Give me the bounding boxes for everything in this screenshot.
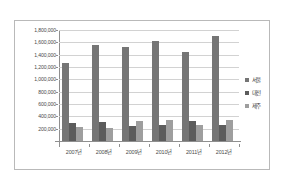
- bar: [189, 121, 196, 141]
- x-axis-tick-mark: [239, 144, 240, 147]
- x-axis-tick-mark: [89, 144, 90, 147]
- x-axis-tick-mark: [209, 144, 210, 147]
- legend-item[interactable]: 제주: [245, 99, 282, 112]
- y-axis-labels: 200,000400,000600,000800,0001,000,0001,2…: [15, 30, 56, 141]
- y-axis-tick-mark: [56, 92, 58, 93]
- x-axis-tick-label: 2008년: [89, 148, 119, 156]
- bar: [92, 45, 99, 142]
- x-axis-tick-label: 2007년: [59, 148, 89, 156]
- legend-swatch-icon: [245, 78, 249, 82]
- y-axis-tick-label: 200,000: [16, 126, 56, 131]
- bar: [106, 128, 113, 141]
- legend-item-label: 서울: [252, 76, 262, 84]
- y-axis-tick-mark: [56, 30, 58, 31]
- y-axis-tick-label: 400,000: [16, 114, 56, 119]
- bar: [76, 127, 83, 141]
- x-axis-tick-mark: [149, 144, 150, 147]
- bar: [99, 122, 106, 141]
- legend-swatch-icon: [245, 91, 249, 95]
- bar: [152, 41, 159, 141]
- chart-legend: 서울대전제주: [245, 73, 282, 112]
- plot-area: [59, 30, 239, 141]
- x-axis-labels: 2007년2008년2009년2010년2011년2012년: [59, 144, 239, 158]
- y-axis-tick-label: 1,000,000: [16, 77, 56, 82]
- bar: [136, 121, 143, 141]
- y-axis-tick-label: 1,200,000: [16, 65, 56, 70]
- legend-item[interactable]: 대전: [245, 86, 282, 99]
- x-axis-tick-mark: [59, 144, 60, 147]
- legend-swatch-icon: [245, 104, 249, 108]
- legend-item-label: 대전: [252, 89, 262, 97]
- y-axis-tick-label: 800,000: [16, 89, 56, 94]
- bar: [212, 36, 219, 141]
- bar: [129, 126, 136, 141]
- bar: [69, 123, 76, 141]
- legend-item-label: 제주: [252, 102, 262, 110]
- bar: [196, 125, 203, 141]
- y-axis-tick-mark: [56, 79, 58, 80]
- x-axis-line: [55, 141, 241, 142]
- chart-frame: 200,000400,000600,000800,0001,000,0001,2…: [14, 20, 270, 170]
- bar-group: [179, 30, 209, 141]
- x-axis-tick-label: 2009년: [119, 148, 149, 156]
- y-axis-tick-mark: [56, 55, 58, 56]
- bar: [159, 125, 166, 141]
- y-axis-tick-label: 600,000: [16, 102, 56, 107]
- bar-group: [119, 30, 149, 141]
- y-axis-tick-mark: [56, 67, 58, 68]
- bar: [122, 47, 129, 141]
- y-axis-tick-mark: [56, 129, 58, 130]
- y-axis-tick-label: 1,800,000: [16, 28, 56, 33]
- bar: [226, 120, 233, 141]
- y-axis-tick-label: 1,400,000: [16, 52, 56, 57]
- y-axis-tick-mark: [56, 116, 58, 117]
- y-axis-tick-mark: [56, 42, 58, 43]
- x-axis-tick-label: 2011년: [179, 148, 209, 156]
- x-axis-tick-mark: [179, 144, 180, 147]
- x-axis-tick-mark: [119, 144, 120, 147]
- bar-group: [59, 30, 89, 141]
- bar-group: [209, 30, 239, 141]
- x-axis-tick-label: 2010년: [149, 148, 179, 156]
- bar: [166, 120, 173, 141]
- bar: [182, 52, 189, 141]
- bar: [62, 63, 69, 141]
- legend-item[interactable]: 서울: [245, 73, 282, 86]
- bar-group: [89, 30, 119, 141]
- y-axis-tick-label: 1,600,000: [16, 40, 56, 45]
- y-axis-tick-mark: [56, 104, 58, 105]
- bar: [219, 125, 226, 141]
- x-axis-tick-label: 2012년: [209, 148, 239, 156]
- bar-group: [149, 30, 179, 141]
